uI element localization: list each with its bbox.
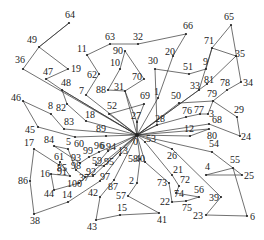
node-66 bbox=[185, 33, 187, 35]
node-label: 5 bbox=[66, 136, 71, 147]
node-57 bbox=[127, 195, 129, 197]
node-label: 1 bbox=[154, 86, 159, 97]
node-label: 71 bbox=[204, 35, 214, 46]
node-42 bbox=[99, 196, 101, 198]
node-62 bbox=[98, 73, 100, 75]
node-label: 90 bbox=[113, 45, 123, 56]
node-36 bbox=[22, 68, 24, 70]
node-89 bbox=[105, 135, 107, 137]
node-52 bbox=[108, 113, 110, 115]
node-label: 83 bbox=[64, 116, 74, 127]
node-82 bbox=[66, 103, 68, 105]
node-label: 31 bbox=[114, 81, 124, 92]
node-34 bbox=[240, 81, 242, 83]
node-79 bbox=[212, 100, 214, 102]
node-6 bbox=[246, 215, 248, 217]
node-label: 9 bbox=[203, 56, 208, 67]
node-label: 15 bbox=[117, 202, 127, 213]
node-83 bbox=[63, 128, 65, 130]
node-label: 51 bbox=[183, 61, 193, 72]
node-label: 91 bbox=[57, 166, 67, 177]
node-73 bbox=[168, 182, 170, 184]
node-label: 74 bbox=[174, 188, 184, 199]
node-8 bbox=[50, 113, 52, 115]
node-29 bbox=[236, 116, 238, 118]
node-label: 39 bbox=[209, 192, 219, 203]
node-label: 42 bbox=[88, 187, 98, 198]
node-7 bbox=[85, 94, 87, 96]
node-54 bbox=[211, 151, 213, 153]
node-label: 52 bbox=[107, 100, 117, 111]
node-15 bbox=[119, 214, 121, 216]
route-1 bbox=[23, 23, 137, 135]
route-10 bbox=[137, 135, 199, 202]
node-11 bbox=[86, 54, 88, 56]
node-64 bbox=[68, 22, 70, 24]
node-label: 64 bbox=[65, 9, 75, 20]
node-label: 32 bbox=[133, 31, 143, 42]
node-label: 55 bbox=[230, 154, 240, 165]
node-23 bbox=[205, 214, 207, 216]
node-30 bbox=[154, 68, 156, 70]
node-label: 35 bbox=[235, 48, 245, 59]
node-label: 29 bbox=[234, 104, 244, 115]
node-label: 47 bbox=[43, 66, 53, 77]
node-1 bbox=[157, 97, 159, 99]
node-label: 36 bbox=[15, 54, 25, 65]
node-16 bbox=[50, 173, 52, 175]
node-91 bbox=[69, 175, 71, 177]
node-label: 33 bbox=[190, 80, 200, 91]
node-label: 28 bbox=[155, 113, 165, 124]
node-5 bbox=[67, 148, 69, 150]
node-90 bbox=[124, 50, 126, 52]
node-label: 98 bbox=[71, 160, 81, 171]
node-label: 62 bbox=[87, 69, 97, 80]
node-label: 48 bbox=[61, 77, 71, 88]
node-label: 75 bbox=[182, 202, 192, 213]
node-48 bbox=[61, 89, 63, 91]
node-label: 22 bbox=[160, 196, 170, 207]
node-45 bbox=[37, 126, 39, 128]
node-label: 86 bbox=[18, 175, 28, 186]
node-96 bbox=[98, 151, 100, 153]
node-label: 53 bbox=[146, 133, 156, 144]
node-86 bbox=[29, 180, 31, 182]
node-label: 2 bbox=[129, 175, 134, 186]
node-label: 73 bbox=[157, 177, 167, 188]
node-55 bbox=[232, 167, 234, 169]
node-label: 44 bbox=[44, 188, 54, 199]
node-18 bbox=[85, 120, 87, 122]
route-9 bbox=[137, 135, 247, 216]
node-label: 89 bbox=[96, 123, 106, 134]
node-12 bbox=[189, 135, 191, 137]
node-label: 8 bbox=[48, 100, 53, 111]
node-label: 56 bbox=[194, 184, 204, 195]
node-63 bbox=[109, 43, 111, 45]
node-label: 94 bbox=[106, 141, 116, 152]
node-label: 77 bbox=[194, 104, 204, 115]
node-76 bbox=[185, 116, 187, 118]
node-label: 30 bbox=[148, 55, 158, 66]
node-68 bbox=[208, 123, 210, 125]
node-49 bbox=[38, 46, 40, 48]
node-32 bbox=[137, 43, 139, 45]
node-label: 26 bbox=[167, 150, 177, 161]
route-diagram: 6449361947481163326690106278831706952272… bbox=[0, 0, 264, 240]
node-46 bbox=[22, 100, 24, 102]
node-label: 20 bbox=[165, 46, 175, 57]
node-label: 18 bbox=[85, 109, 95, 120]
node-label: 78 bbox=[220, 77, 230, 88]
node-39 bbox=[220, 196, 222, 198]
node-78 bbox=[226, 89, 228, 91]
node-28 bbox=[156, 124, 158, 126]
node-47 bbox=[45, 78, 47, 80]
node-label: 45 bbox=[25, 124, 35, 135]
node-84 bbox=[53, 145, 55, 147]
node-label: 49 bbox=[27, 34, 37, 45]
node-label: 19 bbox=[71, 63, 81, 74]
node-label: 14 bbox=[62, 189, 72, 200]
node-31 bbox=[124, 90, 126, 92]
node-10 bbox=[119, 68, 121, 70]
node-label: 87 bbox=[108, 181, 118, 192]
node-label: 69 bbox=[140, 90, 150, 101]
